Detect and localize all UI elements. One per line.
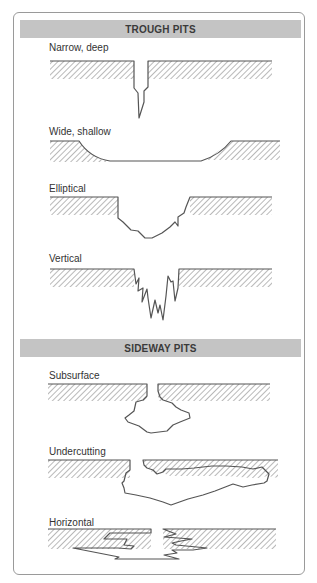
undercutting-pit-figure [48,460,278,505]
narrow-deep-pit-figure [50,61,272,118]
horizontal-pit-figure [48,529,276,559]
wide-shallow-pit-figure [50,141,280,162]
subsurface-pit-figure [48,384,270,433]
vertical-pit-figure [50,269,272,320]
pit-diagrams [0,0,317,583]
elliptical-pit-figure [50,197,272,238]
